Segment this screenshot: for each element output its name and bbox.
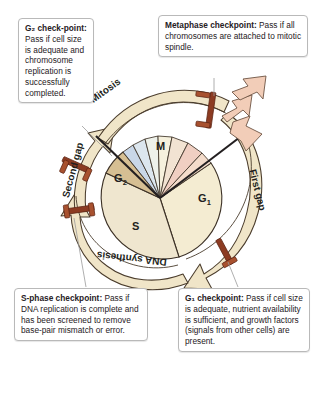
callout-g2-heading: G₂ check-point: [25,23,87,33]
callout-sphase-heading: S-phase checkpoint: [21,293,102,303]
leader-g1 [228,262,238,287]
callout-g1-checkpoint: G₁ checkpoint: Pass if cell size is adeq… [178,288,310,352]
phase-pie [96,131,248,259]
exit-arrow-down [230,116,262,151]
callout-metaphase-checkpoint: Metaphase checkpoint: Pass if all chromo… [158,15,308,57]
callout-metaphase-heading: Metaphase checkpoint: [165,20,257,30]
phase-label-g2: G2 [114,172,127,187]
callout-g2-checkpoint: G₂ check-point: Pass if cell size is ade… [18,18,94,103]
phase-label-s: S [132,220,140,232]
callout-g2-body: Pass if cell size is adequate and chromo… [25,34,84,98]
figure-canvas: M G1 S G2 Mitosis First gap DNA synthesi… [0,0,320,401]
phase-label-m: M [156,140,165,152]
metaphase-exit-arrows [222,76,266,151]
checkpoint-gate-metaphase [196,91,216,128]
callout-sphase-checkpoint: S-phase checkpoint: Pass if DNA replicat… [14,288,148,341]
phase-label-g1: G1 [198,192,211,207]
callout-g1-heading: G₁ checkpoint: [185,293,244,303]
